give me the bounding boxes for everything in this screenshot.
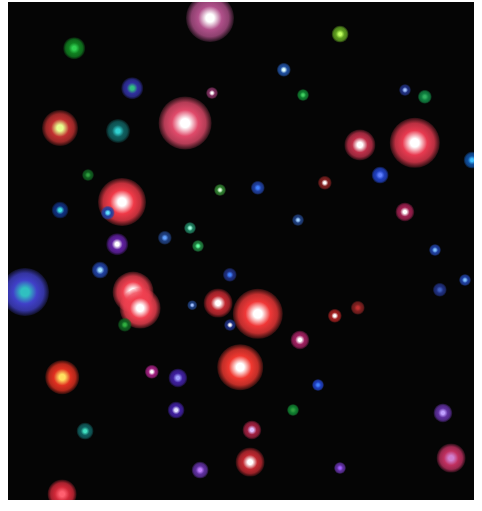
star bbox=[297, 89, 309, 101]
star bbox=[204, 289, 233, 318]
star bbox=[372, 167, 389, 184]
star bbox=[236, 448, 265, 477]
star bbox=[433, 403, 452, 422]
star bbox=[328, 309, 342, 323]
star bbox=[8, 268, 49, 316]
star bbox=[214, 184, 226, 196]
star bbox=[418, 90, 432, 104]
star bbox=[312, 379, 324, 391]
star bbox=[318, 176, 332, 190]
star-field-image bbox=[8, 2, 474, 500]
star bbox=[118, 318, 132, 332]
star bbox=[277, 63, 291, 77]
star bbox=[145, 365, 159, 379]
star bbox=[224, 319, 236, 331]
star bbox=[192, 240, 204, 252]
star bbox=[251, 181, 265, 195]
star bbox=[77, 423, 94, 440]
star bbox=[290, 330, 309, 349]
star bbox=[292, 214, 304, 226]
star bbox=[429, 244, 441, 256]
star bbox=[106, 233, 128, 255]
star bbox=[168, 402, 185, 419]
star bbox=[48, 480, 77, 500]
star bbox=[168, 368, 187, 387]
star bbox=[121, 77, 143, 99]
star bbox=[233, 289, 283, 339]
star bbox=[82, 169, 94, 181]
star bbox=[92, 262, 109, 279]
star bbox=[186, 2, 234, 42]
star bbox=[459, 274, 471, 286]
star bbox=[184, 222, 196, 234]
star bbox=[106, 119, 130, 143]
star bbox=[332, 26, 349, 43]
star bbox=[42, 110, 78, 146]
star bbox=[158, 231, 172, 245]
star bbox=[395, 202, 414, 221]
star bbox=[242, 420, 261, 439]
star bbox=[187, 300, 197, 310]
star bbox=[63, 37, 85, 59]
star bbox=[390, 118, 440, 168]
star bbox=[217, 344, 263, 390]
star bbox=[45, 360, 79, 394]
star bbox=[437, 444, 466, 473]
star bbox=[334, 462, 346, 474]
star bbox=[464, 152, 474, 169]
star bbox=[192, 462, 209, 479]
star bbox=[433, 283, 447, 297]
star bbox=[399, 84, 411, 96]
star bbox=[287, 404, 299, 416]
star bbox=[223, 268, 237, 282]
star bbox=[344, 129, 375, 160]
star bbox=[52, 202, 69, 219]
star bbox=[351, 301, 365, 315]
star bbox=[206, 87, 218, 99]
star bbox=[159, 97, 212, 150]
